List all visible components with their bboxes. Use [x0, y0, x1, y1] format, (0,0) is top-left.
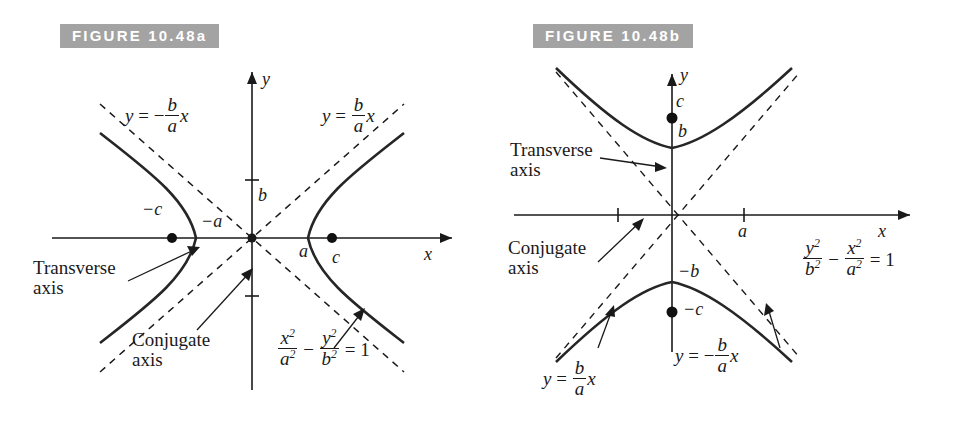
focus-label-positive-c: c — [676, 92, 684, 111]
vertex-label-negative-b: −b — [678, 262, 699, 281]
focus-negative-c — [167, 233, 177, 243]
figure-page: FIGURE 10.48a — [0, 0, 959, 429]
asymptote-negative-equation: y = −bax — [675, 335, 738, 376]
figure-b-diagram: y c b x a −b −c Transverse axis Conjugat… — [480, 0, 959, 429]
y-axis-group — [247, 72, 257, 390]
figure-a-svg — [0, 0, 500, 429]
hyperbola-equation: y2 b2 − x2 a2 = 1 — [802, 238, 895, 280]
x-axis-group — [514, 210, 910, 220]
y-axis-label: y — [262, 70, 270, 89]
transverse-axis-leader — [128, 246, 200, 281]
focus-label-positive-c: c — [332, 248, 340, 267]
conjugate-axis-leader — [197, 268, 253, 330]
transverse-axis-label: Transverse axis — [510, 140, 593, 180]
asymptote-right-equation: y = bax — [322, 95, 375, 136]
asymptote-left-equation: y = −bax — [125, 95, 188, 136]
vertex-label-negative-a: −a — [201, 212, 222, 231]
asymptote-positive-equation: y = bax — [543, 358, 596, 399]
vertex-label-positive-b: b — [678, 122, 687, 141]
semi-axis-label-b: b — [258, 186, 267, 205]
conjugate-axis-label: Conjugate axis — [508, 238, 586, 278]
focus-negative-c — [667, 307, 678, 318]
asymptote-positive-leader — [598, 305, 615, 348]
conjugate-axis-leader — [598, 218, 644, 262]
figure-a-diagram: y = −bax y = bax −c −a a c b x y Transve… — [0, 0, 500, 429]
hyperbola-lower-branch — [556, 282, 792, 362]
transverse-axis-label: Transverse axis — [33, 258, 116, 298]
focus-positive-c — [667, 113, 678, 124]
asymptote-negative-leader — [764, 303, 780, 348]
x-axis-label: x — [424, 245, 432, 264]
focus-positive-c — [327, 233, 337, 243]
focus-label-negative-c: −c — [683, 300, 703, 319]
vertex-label-positive-a: a — [299, 242, 308, 261]
semi-axis-label-a: a — [738, 222, 747, 241]
transverse-axis-leader — [600, 158, 667, 172]
hyperbola-equation: x2 a2 − y2 b2 = 1 — [277, 328, 370, 370]
conjugate-axis-label: Conjugate axis — [132, 330, 210, 370]
y-axis-label: y — [680, 66, 688, 85]
focus-label-negative-c: −c — [142, 200, 162, 219]
center-point — [248, 234, 257, 243]
